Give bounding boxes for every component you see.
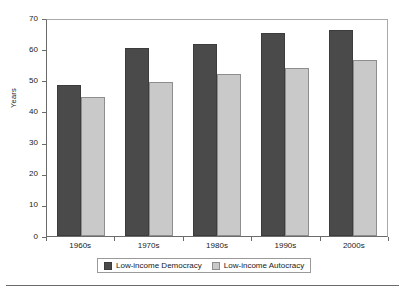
y-axis-tick: 20	[0, 175, 46, 176]
bar-groups	[47, 20, 387, 236]
bar-chart-figure: Years 010203040506070 1960s1970s1980s199…	[0, 0, 405, 293]
y-axis-tick: 30	[0, 144, 46, 145]
footer-divider	[6, 285, 399, 286]
y-axis-tick: 70	[0, 19, 46, 20]
bar-1980s-series2[interactable]	[217, 74, 241, 236]
y-axis-tick-group: 010203040506070	[0, 0, 46, 293]
bar-group-1960s	[47, 20, 115, 236]
bar-2000s-series2[interactable]	[353, 60, 377, 236]
y-axis-tick-label: 10	[29, 200, 38, 209]
bar-1960s-series1[interactable]	[57, 85, 81, 236]
y-axis-tick: 50	[0, 81, 46, 82]
plot-area	[46, 19, 388, 237]
legend-entry-1[interactable]: Low-income Democracy	[104, 261, 202, 270]
y-axis-tick-label: 0	[34, 232, 38, 241]
legend-swatch-icon	[104, 262, 112, 270]
x-axis-label-1980s: 1980s	[183, 241, 251, 250]
legend-swatch-icon	[212, 262, 220, 270]
y-axis-tick: 60	[0, 50, 46, 51]
y-axis-tick: 0	[0, 237, 46, 238]
y-axis-tick-label: 50	[29, 76, 38, 85]
y-axis-tick-label: 70	[29, 14, 38, 23]
x-axis-tick-mark	[388, 237, 389, 241]
x-axis-label-2000s: 2000s	[320, 241, 388, 250]
bar-2000s-series1[interactable]	[329, 30, 353, 236]
bar-group-2000s	[319, 20, 387, 236]
bar-1990s-series1[interactable]	[261, 33, 285, 236]
bar-1990s-series2[interactable]	[285, 68, 309, 236]
bar-1970s-series2[interactable]	[149, 82, 173, 236]
bar-1980s-series1[interactable]	[193, 44, 217, 236]
y-axis-tick-label: 60	[29, 45, 38, 54]
x-axis-label-1970s: 1970s	[114, 241, 182, 250]
bar-group-1980s	[183, 20, 251, 236]
y-axis-tick: 40	[0, 112, 46, 113]
legend-entry-2[interactable]: Low-income Autocracy	[212, 261, 304, 270]
y-axis-tick-label: 30	[29, 138, 38, 147]
x-axis-label-1960s: 1960s	[46, 241, 114, 250]
bar-group-1970s	[115, 20, 183, 236]
legend-label: Low-income Autocracy	[224, 261, 304, 270]
x-axis-label-1990s: 1990s	[251, 241, 319, 250]
chart-legend: Low-income DemocracyLow-income Autocracy	[97, 258, 311, 273]
y-axis-tick-label: 40	[29, 107, 38, 116]
legend-label: Low-income Democracy	[116, 261, 202, 270]
y-axis-tick-label: 20	[29, 169, 38, 178]
bar-1960s-series2[interactable]	[81, 97, 105, 236]
y-axis-tick: 10	[0, 206, 46, 207]
x-axis-labels: 1960s1970s1980s1990s2000s	[46, 241, 388, 250]
bar-group-1990s	[251, 20, 319, 236]
bar-1970s-series1[interactable]	[125, 48, 149, 236]
